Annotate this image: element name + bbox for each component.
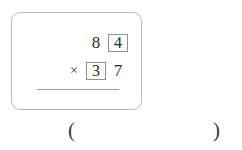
bottom-operand-digit-ones: 7 bbox=[107, 61, 129, 81]
answer-paren-open: ( bbox=[68, 116, 75, 144]
answer-input-area[interactable] bbox=[80, 116, 210, 144]
bottom-operand-row: × 3 7 bbox=[37, 60, 129, 82]
top-operand-digit-tens: 8 bbox=[85, 33, 107, 53]
top-operand-digit-ones-slot: 4 bbox=[107, 33, 129, 53]
problem-panel: 8 4 × 3 7 bbox=[11, 12, 142, 110]
sum-rule-divider bbox=[37, 89, 119, 90]
answer-blank: ( ) bbox=[0, 116, 242, 146]
bottom-operand-digit-tens-box[interactable]: 3 bbox=[86, 62, 106, 80]
top-operand-row: 8 4 bbox=[37, 32, 129, 54]
column-multiplication: 8 4 × 3 7 bbox=[12, 13, 141, 109]
bottom-operand-digit-tens-slot: 3 bbox=[85, 61, 107, 81]
answer-paren-close: ) bbox=[213, 116, 220, 144]
top-operand-digit-ones-box[interactable]: 4 bbox=[108, 34, 128, 52]
multiplication-operator-icon: × bbox=[63, 61, 85, 81]
